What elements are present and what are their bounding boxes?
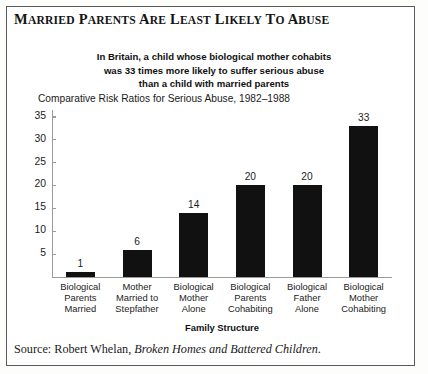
category-label-line: Mother [107, 281, 167, 292]
category-label-line: Biological [334, 281, 394, 292]
bar [123, 250, 152, 277]
y-tick-mark [52, 231, 56, 232]
source-note: Source: Robert Whelan, Broken Homes and … [14, 342, 321, 357]
source-suffix: . [318, 342, 321, 356]
category-label-line: Alone [164, 303, 224, 314]
chart-caption: Comparative Risk Ratios for Serious Abus… [38, 93, 290, 104]
bar [293, 185, 322, 277]
bar [179, 213, 208, 277]
y-tick-mark [52, 208, 56, 209]
y-tick-mark [52, 254, 56, 255]
category-label-line: Cohabiting [334, 303, 394, 314]
category-label-line: Cohabiting [220, 303, 280, 314]
x-axis-category-label: BiologicalMotherCohabiting [334, 281, 394, 315]
y-tick-label: 15 [20, 201, 46, 212]
figure-panel: MARRIED PARENTS ARE LEAST LIKELY TO ABUS… [0, 0, 428, 374]
category-label-line: Mother [164, 292, 224, 303]
subtitle-block: In Britain, a child whose biological mot… [0, 50, 428, 91]
x-axis-category-label: MotherMarried toStepfather [107, 281, 167, 315]
category-label-line: Biological [277, 281, 337, 292]
subtitle-line-3: than a child with married parents [0, 77, 428, 91]
y-tick-label: 5 [20, 247, 46, 258]
category-label-line: Married [50, 303, 110, 314]
y-tick-mark [52, 139, 56, 140]
bar-value-label: 6 [112, 236, 162, 247]
y-tick-mark [52, 162, 56, 163]
y-tick-mark [52, 185, 56, 186]
x-axis-title: Family Structure [52, 322, 392, 333]
bar-value-label: 20 [282, 171, 332, 182]
category-label-line: Biological [50, 281, 110, 292]
y-tick-label: 10 [20, 224, 46, 235]
x-axis-line [52, 277, 392, 278]
subtitle-line-1: In Britain, a child whose biological mot… [0, 50, 428, 64]
y-tick-label: 20 [20, 178, 46, 189]
y-tick-label: 30 [20, 133, 46, 144]
x-axis-category-label: BiologicalFatherAlone [277, 281, 337, 315]
page-title: MARRIED PARENTS ARE LEAST LIKELY TO ABUS… [14, 11, 329, 28]
x-axis-category-label: BiologicalMotherAlone [164, 281, 224, 315]
category-label-line: Biological [164, 281, 224, 292]
bar-value-label: 20 [225, 171, 275, 182]
x-axis-category-label: BiologicalParentsMarried [50, 281, 110, 315]
category-label-line: Father [277, 292, 337, 303]
bar-value-label: 33 [339, 112, 389, 123]
category-label-line: Biological [220, 281, 280, 292]
source-book-title: Broken Homes and Battered Children [134, 342, 317, 356]
bar [66, 272, 95, 277]
category-label-line: Alone [277, 303, 337, 314]
source-prefix: Source: Robert Whelan, [14, 342, 134, 356]
category-label-line: Parents [50, 292, 110, 303]
subtitle-line-2: was 33 times more likely to suffer serio… [0, 64, 428, 78]
y-tick-label: 25 [20, 156, 46, 167]
bar [236, 185, 265, 277]
y-tick-label: 35 [20, 110, 46, 121]
y-tick-mark [52, 116, 56, 117]
y-axis-line [52, 110, 53, 277]
bar-value-label: 14 [169, 199, 219, 210]
bar [349, 126, 378, 277]
category-label-line: Stepfather [107, 303, 167, 314]
category-label-line: Parents [220, 292, 280, 303]
category-label-line: Married to [107, 292, 167, 303]
category-label-line: Mother [334, 292, 394, 303]
x-axis-category-label: BiologicalParentsCohabiting [220, 281, 280, 315]
bar-value-label: 1 [55, 258, 105, 269]
